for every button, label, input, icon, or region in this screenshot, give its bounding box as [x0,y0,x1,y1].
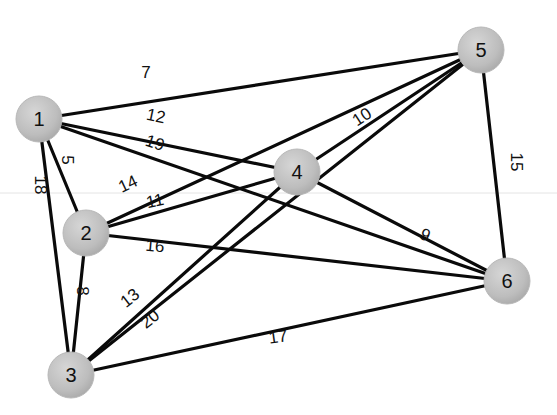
node-3: 3 [48,352,94,398]
edge-1-6 [39,119,507,281]
graph-diagram: 71219518141116813201710915 123456 [0,0,557,415]
node-5: 5 [458,27,504,73]
node-label: 4 [291,161,302,183]
node-label: 1 [33,108,44,130]
edge-weight-label: 12 [145,105,167,128]
edge-weight-label: 19 [143,131,167,155]
edge-weight-label: 20 [137,306,164,333]
node-1: 1 [16,96,62,142]
edge-4-6 [297,172,507,281]
edge-1-5 [39,50,481,119]
edge-weight-label: 18 [31,176,50,195]
edge-5-6 [481,50,507,281]
edge-weight-label: 17 [267,326,288,347]
edges-layer [39,50,507,375]
node-label: 6 [501,270,512,292]
edge-labels-layer: 71219518141116813201710915 [31,63,526,348]
edge-weight-label: 5 [58,155,77,164]
node-4: 4 [274,149,320,195]
node-label: 3 [65,364,76,386]
edge-weight-label: 8 [73,286,92,295]
edge-3-4 [71,172,297,375]
edge-weight-label: 15 [507,153,526,172]
node-label: 2 [80,222,91,244]
node-2: 2 [63,210,109,256]
edge-weight-label: 16 [145,236,166,257]
node-label: 5 [475,39,486,61]
edge-weight-label: 7 [141,63,150,82]
edge-4-5 [297,50,481,172]
edge-weight-label: 13 [117,285,144,312]
node-6: 6 [484,258,530,304]
